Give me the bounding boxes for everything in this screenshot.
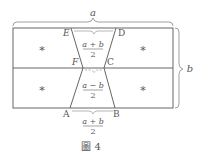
vertex-E: E — [62, 28, 70, 38]
vertex-C: C — [107, 57, 114, 67]
brace-a — [13, 18, 173, 26]
region-mark-top-left: * — [39, 44, 45, 57]
fraction-bottom-num: a + b — [82, 117, 104, 126]
brace-mid-inner — [85, 70, 102, 73]
edge-FA — [70, 68, 83, 108]
fraction-middle-den: 2 — [90, 91, 95, 100]
region-mark-bottom-right: * — [140, 84, 146, 97]
label-b: b — [187, 63, 193, 74]
region-mark-bottom-left: * — [39, 84, 45, 97]
figure-caption: 圖 4 — [81, 141, 101, 152]
brace-b — [175, 28, 183, 108]
label-a: a — [90, 7, 96, 18]
brace-bottom — [72, 111, 113, 114]
fraction-top-num: a + b — [82, 40, 104, 49]
edge-CB — [104, 68, 115, 108]
fraction-top-den: 2 — [90, 50, 95, 59]
brace-top-inner — [74, 31, 113, 34]
vertex-F: F — [71, 57, 79, 67]
fraction-bottom-den: 2 — [90, 127, 95, 136]
diagram: a b E D F C A B a + b 2 a − b 2 a + b 2 … — [0, 0, 202, 157]
region-mark-top-right: * — [140, 44, 146, 57]
vertex-D: D — [118, 28, 125, 38]
vertex-B: B — [113, 109, 120, 119]
vertex-A: A — [62, 109, 70, 119]
fraction-middle-num: a − b — [82, 81, 104, 90]
